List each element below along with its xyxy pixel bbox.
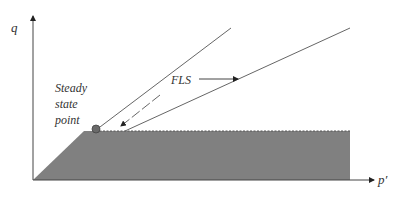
fls-label: FLS xyxy=(171,73,191,88)
shaded-region xyxy=(33,131,350,180)
steady-state-label-line-3: point xyxy=(55,112,105,128)
steady-state-label-line-1: Steady xyxy=(55,80,105,96)
x-axis-label: p′ xyxy=(378,172,387,188)
steady-state-label: Steady state point xyxy=(55,80,105,128)
dashed-arrow xyxy=(121,95,160,126)
y-axis-label: q xyxy=(11,20,18,36)
steady-state-label-line-2: state xyxy=(55,96,105,112)
